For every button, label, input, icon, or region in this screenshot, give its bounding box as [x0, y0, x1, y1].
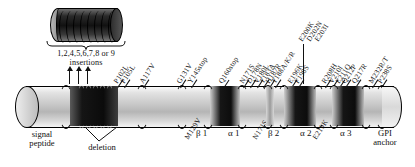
cylinder-right-end [382, 86, 402, 128]
domain-label: α 2 [300, 128, 311, 138]
insertion-arrow [78, 70, 79, 84]
segment-divider [174, 85, 190, 129]
domain-label: β 1 [196, 128, 207, 138]
cylinder-left-cap [15, 86, 39, 128]
segment-divider [200, 85, 216, 129]
segment-divider [326, 85, 342, 129]
signal-peptide-caption: signal peptide [14, 130, 70, 149]
deletion-caption: deletion [76, 143, 128, 152]
segment-divider [310, 85, 326, 129]
prp-cylinder [14, 86, 402, 126]
insertion-arrow [69, 70, 70, 84]
insertion-arrow [87, 70, 88, 84]
segment-divider [134, 85, 150, 129]
gpi-line2: anchor [362, 138, 408, 147]
insertions-caption: 1,2,4,5,6,7,8 or 9 insertions [40, 50, 132, 67]
octapeptide-repeat-inset [48, 6, 122, 42]
prp-mutation-diagram: 1,2,4,5,6,7,8 or 9 insertions [0, 0, 415, 167]
domain-label: α 1 [228, 128, 239, 138]
segment-divider [276, 85, 292, 129]
segment-divider [260, 85, 276, 129]
inset-right-cap [110, 8, 123, 42]
deletion-label: deletion [76, 143, 128, 152]
domain-label: β 2 [268, 128, 279, 138]
signal-peptide-line2: peptide [14, 139, 70, 148]
segment-divider [58, 85, 74, 129]
segment-divider [234, 85, 250, 129]
octarepeat-divider [104, 85, 115, 129]
mutation-label: A117V [137, 61, 157, 85]
segment-divider [358, 85, 374, 129]
gpi-anchor-caption: GPI anchor [362, 129, 408, 148]
domain-label: α 3 [340, 128, 351, 138]
